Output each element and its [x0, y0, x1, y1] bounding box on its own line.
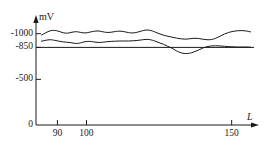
axes-layer: [33, 15, 259, 128]
data-series-layer: [41, 30, 250, 54]
y-tick-label-0: -1000: [0, 28, 33, 38]
y-axis-title: mV: [39, 11, 54, 22]
series-upper-curve: [41, 30, 250, 40]
x-axis-title: L: [247, 111, 253, 122]
x-tick-label-2: 150: [217, 128, 247, 138]
y-tick-label-1: -850: [0, 41, 33, 51]
series-lower-curve: [41, 39, 250, 53]
x-tick-label-1: 100: [71, 128, 101, 138]
x-tick-label-0: 90: [42, 128, 72, 138]
chart-figure: mV L -1000-850-5000 90100150: [0, 0, 269, 159]
y-tick-label-3: 0: [0, 119, 33, 129]
y-tick-label-2: -500: [0, 73, 33, 83]
